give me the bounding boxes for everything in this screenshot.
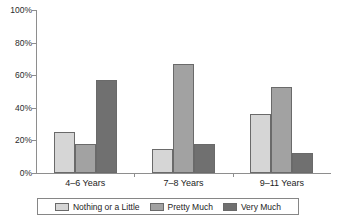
y-axis-tick-label: 100%: [2, 6, 32, 15]
bar: [292, 153, 313, 173]
x-axis-line: [36, 173, 331, 174]
chart-title-clipped: [0, 0, 337, 3]
legend-label: Pretty Much: [168, 202, 213, 212]
legend-swatch-icon: [150, 203, 164, 211]
bar: [75, 144, 96, 173]
y-axis-tick-label: 40%: [2, 104, 32, 113]
bar: [173, 64, 194, 173]
x-axis-tick: [233, 173, 234, 177]
y-axis-tick: [32, 75, 36, 76]
y-axis-tick: [32, 140, 36, 141]
y-axis-tick: [32, 173, 36, 174]
legend-item[interactable]: Pretty Much: [150, 202, 213, 212]
y-axis-tick: [32, 10, 36, 11]
y-axis-tick: [32, 43, 36, 44]
legend-item[interactable]: Very Much: [223, 202, 281, 212]
bar: [96, 80, 117, 173]
legend-item[interactable]: Nothing or a Little: [55, 202, 140, 212]
bar: [194, 144, 215, 173]
bar: [152, 149, 173, 173]
x-axis-category-label: 4–6 Years: [40, 178, 131, 189]
y-axis-tick-label: 20%: [2, 136, 32, 145]
bar: [54, 132, 75, 173]
chart-legend: Nothing or a LittlePretty MuchVery Much: [37, 198, 299, 215]
y-axis-tick: [32, 108, 36, 109]
y-axis-tick-label: 0%: [2, 169, 32, 178]
plot-area: 0%20%40%60%80%100%: [36, 10, 331, 173]
y-axis-line: [36, 10, 37, 173]
y-axis-tick-label: 80%: [2, 39, 32, 48]
bar: [271, 87, 292, 173]
y-axis-tick-label: 60%: [2, 71, 32, 80]
legend-swatch-icon: [223, 203, 237, 211]
legend-label: Nothing or a Little: [73, 202, 140, 212]
x-axis-category-label: 7–8 Years: [138, 178, 229, 189]
legend-label: Very Much: [241, 202, 281, 212]
bar-chart: 0%20%40%60%80%100% 4–6 Years7–8 Years9–1…: [0, 0, 337, 221]
legend-swatch-icon: [55, 203, 69, 211]
x-axis-category-label: 9–11 Years: [236, 178, 327, 189]
bar: [250, 114, 271, 173]
x-axis-tick: [134, 173, 135, 177]
